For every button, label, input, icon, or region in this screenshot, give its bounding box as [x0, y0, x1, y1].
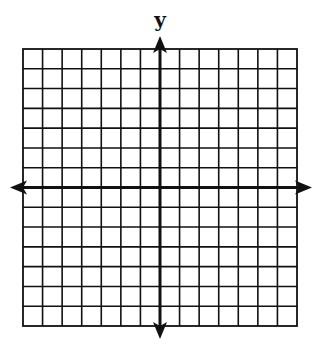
coordinate-plane: y [0, 0, 328, 357]
y-axis-label: y [153, 8, 167, 32]
